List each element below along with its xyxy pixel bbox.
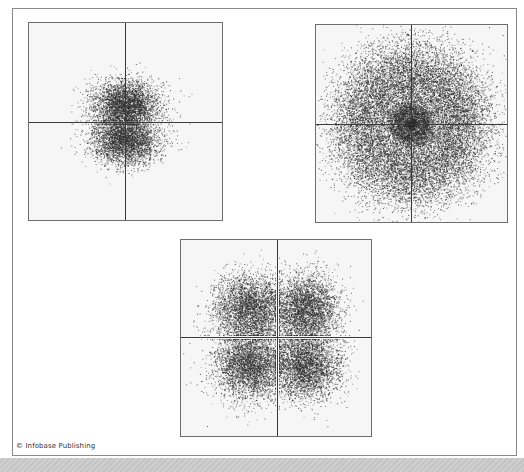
horizontal-axis: [181, 337, 371, 338]
cloverleaf-electron-cloud: [181, 240, 371, 436]
concentric-rings-orbital-panel: [315, 24, 508, 223]
dumbbell-orbital-panel: [28, 22, 223, 221]
vertical-axis: [277, 240, 278, 436]
cloverleaf-orbital-panel: [180, 239, 372, 437]
vertical-axis: [125, 23, 126, 220]
bottom-hatched-band: [0, 458, 524, 472]
vertical-axis: [411, 25, 412, 222]
copyright-credit: © Infobase Publishing: [16, 442, 95, 450]
